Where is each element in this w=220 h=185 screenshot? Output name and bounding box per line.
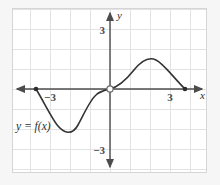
right-endpoint-dot bbox=[183, 87, 188, 92]
x-axis-name-label: x bbox=[199, 89, 205, 101]
graph-figure: 3 −3 3 −3 y x y = f(x) bbox=[0, 0, 220, 185]
left-endpoint-dot bbox=[34, 87, 39, 92]
y-axis-name-label: y bbox=[116, 9, 122, 21]
y-axis-tick-label-positive: 3 bbox=[100, 24, 106, 36]
y-axis-tick-label-negative: −3 bbox=[93, 144, 105, 156]
function-equation-label: y = f(x) bbox=[15, 120, 51, 133]
origin-open-circle-marker bbox=[107, 86, 113, 92]
function-plot-svg: 3 −3 3 −3 y x y = f(x) bbox=[0, 0, 220, 185]
x-axis-tick-label-negative: −3 bbox=[44, 91, 56, 103]
x-axis-tick-label-positive: 3 bbox=[167, 91, 173, 103]
